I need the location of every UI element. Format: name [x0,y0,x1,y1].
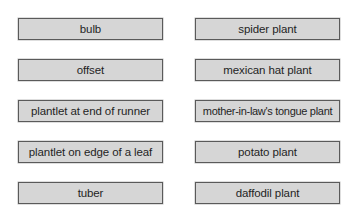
structure-column: bulb offset plantlet at end of runner pl… [18,18,163,223]
box-label: potato plant [238,146,297,158]
box-label: spider plant [238,23,296,35]
plant-box-mother-in-law[interactable]: mother-in-law's tongue plant [195,100,340,122]
plant-box-daffodil[interactable]: daffodil plant [195,182,340,204]
box-label: tuber [78,187,104,199]
structure-box-runner[interactable]: plantlet at end of runner [18,100,163,122]
box-label: bulb [80,23,101,35]
structure-box-leaf-edge[interactable]: plantlet on edge of a leaf [18,141,163,163]
structure-box-bulb[interactable]: bulb [18,18,163,40]
plant-box-potato[interactable]: potato plant [195,141,340,163]
structure-box-tuber[interactable]: tuber [18,182,163,204]
box-label: mexican hat plant [223,64,311,76]
plant-box-spider[interactable]: spider plant [195,18,340,40]
box-label: plantlet on edge of a leaf [29,146,152,158]
box-label: mother-in-law's tongue plant [203,105,332,117]
box-label: plantlet at end of runner [31,105,150,117]
plant-box-mexican-hat[interactable]: mexican hat plant [195,59,340,81]
structure-box-offset[interactable]: offset [18,59,163,81]
plant-column: spider plant mexican hat plant mother-in… [195,18,340,223]
box-label: offset [77,64,104,76]
box-label: daffodil plant [236,187,300,199]
